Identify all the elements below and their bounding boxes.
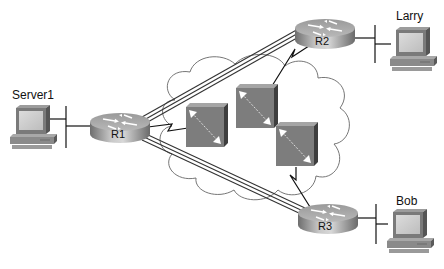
pc-bob	[387, 209, 434, 253]
label-r3: R3	[318, 220, 332, 232]
label-larry: Larry	[396, 9, 423, 23]
label-r1: R1	[111, 128, 125, 140]
ethernet-larry-r2	[354, 25, 391, 63]
label-server1: Server1	[12, 88, 54, 102]
label-r2: R2	[315, 35, 329, 47]
ethernet-bob-r3	[356, 204, 388, 244]
pc-server1	[10, 105, 57, 149]
frame-relay-switch-2	[236, 84, 278, 128]
frame-relay-switch-1	[186, 103, 228, 147]
label-bob: Bob	[396, 194, 417, 208]
frame-relay-switch-3	[276, 122, 318, 166]
pc-larry	[390, 27, 437, 71]
network-diagram: Server1 Larry Bob R1 R2 R3	[0, 0, 444, 269]
